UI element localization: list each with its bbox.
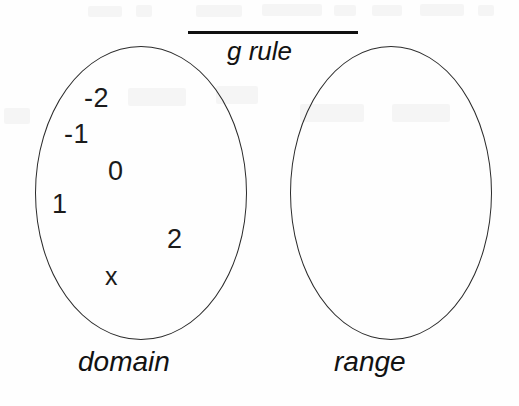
scan-artifact xyxy=(4,108,30,124)
g-rule-label: g rule xyxy=(227,38,292,64)
scan-artifact xyxy=(88,6,122,17)
domain-element-minus-2: -2 xyxy=(84,85,109,112)
range-oval xyxy=(290,46,492,340)
scan-artifact xyxy=(262,4,322,16)
domain-element-x: x xyxy=(105,264,118,289)
domain-element-two: 2 xyxy=(167,226,183,253)
range-caption: range xyxy=(334,348,406,376)
scan-artifact xyxy=(478,5,494,16)
scan-artifact xyxy=(196,5,242,17)
scan-artifact xyxy=(420,4,464,16)
g-rule-underline xyxy=(188,31,358,34)
scan-artifact xyxy=(334,5,356,16)
diagram-canvas: g rule -2 -1 0 1 2 x domain range xyxy=(0,0,519,406)
domain-element-one: 1 xyxy=(52,191,68,218)
scan-artifact xyxy=(372,5,402,16)
domain-caption: domain xyxy=(78,348,170,376)
scan-artifact xyxy=(136,5,152,17)
domain-element-minus-1: -1 xyxy=(64,121,89,148)
domain-element-zero: 0 xyxy=(108,158,124,185)
